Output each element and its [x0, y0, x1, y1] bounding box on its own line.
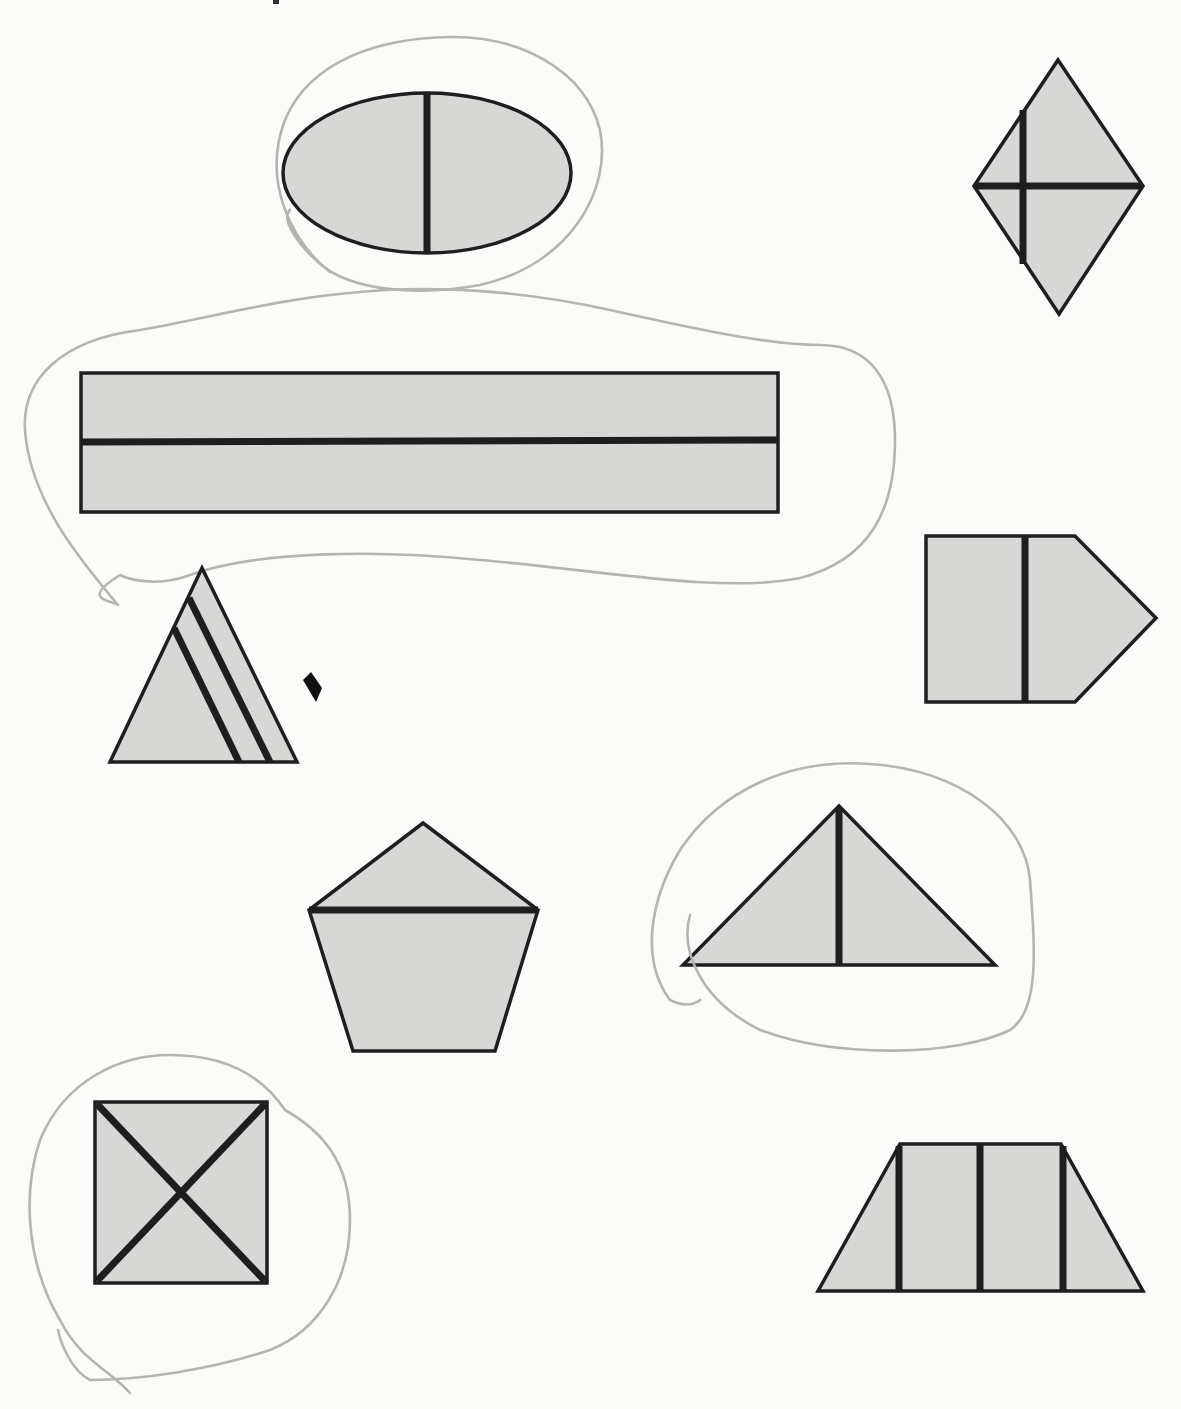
worksheet-canvas: [0, 0, 1181, 1409]
shape-trapezoid[interactable]: [818, 1144, 1143, 1291]
shape-wide-triangle[interactable]: [683, 806, 995, 965]
shape-rhombus[interactable]: [974, 60, 1143, 314]
shape-striped-triangle[interactable]: [110, 568, 297, 762]
ink-speck: [273, 0, 279, 4]
shape-pentagon-arrow[interactable]: [926, 536, 1156, 702]
shape-long-rectangle[interactable]: [81, 373, 778, 512]
shape-oval[interactable]: [283, 93, 571, 253]
shape-square-x[interactable]: [95, 1102, 267, 1283]
shape-pentagon[interactable]: [309, 823, 538, 1051]
ink-blot: [303, 672, 322, 702]
